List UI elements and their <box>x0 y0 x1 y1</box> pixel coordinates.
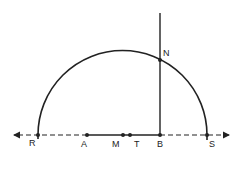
geometry-diagram: R A M T B S N <box>0 0 243 169</box>
label-S: S <box>209 139 215 149</box>
label-A: A <box>81 139 87 149</box>
point-S <box>205 133 209 137</box>
label-T: T <box>134 139 140 149</box>
label-B: B <box>157 139 163 149</box>
point-M <box>121 133 125 137</box>
label-N: N <box>163 48 170 58</box>
label-M: M <box>112 139 120 149</box>
point-R <box>36 133 40 137</box>
point-T <box>128 133 132 137</box>
point-A <box>85 133 89 137</box>
semicircle-arc-RS <box>38 51 207 141</box>
label-R: R <box>29 138 36 148</box>
point-N <box>158 58 162 62</box>
point-B <box>158 133 162 137</box>
